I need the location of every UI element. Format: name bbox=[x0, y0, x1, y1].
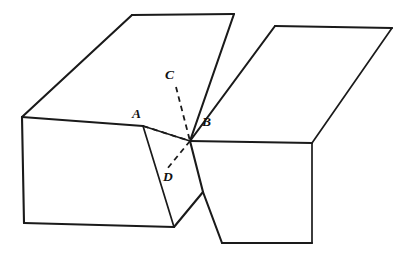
vertex-label-B: B bbox=[202, 115, 211, 129]
left-block-top-face-fill bbox=[22, 14, 234, 126]
geometry-figure: A B C D bbox=[0, 0, 416, 260]
vertex-label-D: D bbox=[163, 170, 173, 184]
right-block-front-face-fill bbox=[190, 141, 312, 243]
vertex-label-C: C bbox=[165, 68, 174, 82]
left-block-top-edge-back bbox=[132, 14, 234, 15]
dashed-segment-CB bbox=[176, 87, 190, 141]
vertex-label-A: A bbox=[132, 107, 141, 121]
right-block-top-face-fill bbox=[190, 26, 392, 143]
figure-canvas bbox=[0, 0, 416, 260]
